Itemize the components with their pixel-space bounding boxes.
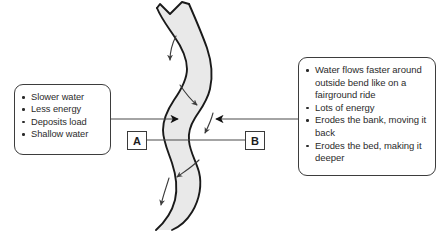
inside-bend-callout: Slower water Less energy Deposits load S… <box>14 84 111 155</box>
list-item: Less energy <box>21 103 103 115</box>
flow-arrow-1 <box>170 36 176 60</box>
outside-bend-list: Water flows faster around outside bend l… <box>305 64 428 165</box>
list-item: Shallow water <box>21 128 103 140</box>
list-item: Lots of energy <box>305 102 428 115</box>
river-channel <box>156 2 212 230</box>
flow-arrow-5 <box>161 178 169 205</box>
diagram-canvas: Slower water Less energy Deposits load S… <box>0 0 443 232</box>
inside-bend-list: Slower water Less energy Deposits load S… <box>21 91 103 141</box>
list-item: Deposits load <box>21 116 103 128</box>
marker-label-a: A <box>127 131 147 150</box>
list-item: Water flows faster around outside bend l… <box>305 64 428 102</box>
flow-arrow-3 <box>205 113 213 133</box>
list-item: Erodes the bank, moving it back <box>305 114 428 139</box>
marker-label-b: B <box>245 131 265 150</box>
list-item: Erodes the bed, making it deeper <box>305 140 428 165</box>
list-item: Slower water <box>21 91 103 103</box>
outside-bend-callout: Water flows faster around outside bend l… <box>298 57 436 176</box>
